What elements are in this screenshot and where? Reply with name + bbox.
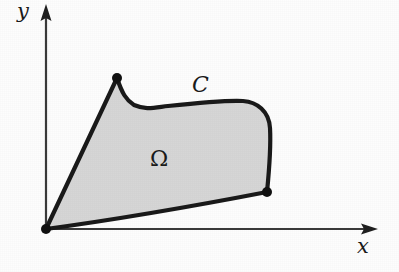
right-vertex-dot bbox=[262, 187, 272, 197]
cusp-vertex-dot bbox=[112, 73, 122, 83]
curve-c-label: C bbox=[192, 74, 209, 96]
origin-vertex-dot bbox=[41, 224, 51, 234]
y-axis-label: y bbox=[17, 1, 29, 22]
x-axis-label: x bbox=[357, 236, 369, 257]
region-diagram-svg bbox=[0, 0, 399, 272]
figure-canvas: y x C Ω bbox=[0, 0, 399, 272]
region-omega-label: Ω bbox=[150, 148, 168, 170]
